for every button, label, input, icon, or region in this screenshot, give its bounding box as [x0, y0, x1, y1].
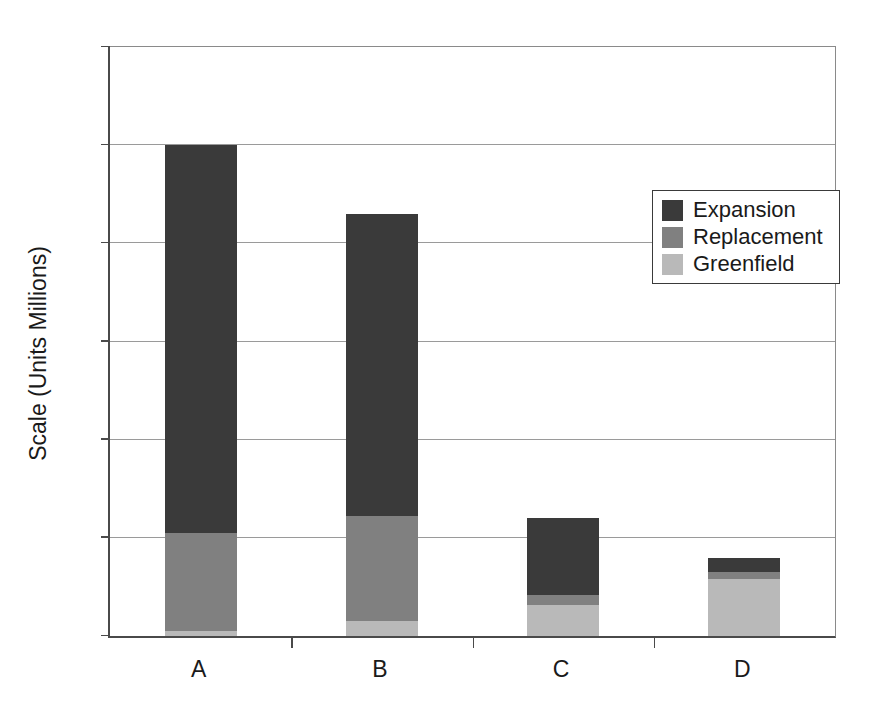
legend-item-label: Replacement — [693, 225, 823, 249]
y-axis-tick-mark — [101, 635, 110, 637]
legend-item: Expansion — [662, 198, 823, 222]
x-axis-tick-label: B — [340, 656, 420, 683]
legend: Expansion Replacement Greenfield — [652, 190, 840, 284]
x-axis-tick-label: D — [702, 656, 782, 683]
bar-b — [346, 214, 418, 636]
plot-area: Expansion Replacement Greenfield — [108, 46, 836, 638]
bar-segment-expansion — [346, 214, 418, 516]
legend-item-label: Expansion — [693, 198, 796, 222]
y-axis-tick-mark — [101, 46, 110, 48]
legend-item: Replacement — [662, 225, 823, 249]
legend-swatch-icon — [662, 200, 683, 221]
bar-segment-replacement — [165, 533, 237, 631]
bar-segment-expansion — [165, 145, 237, 533]
y-axis-tick-mark — [101, 340, 110, 342]
bar-d — [708, 558, 780, 637]
bar-segment-greenfield — [708, 579, 780, 636]
bar-segment-expansion — [527, 518, 599, 595]
bar-segment-replacement — [527, 595, 599, 605]
bar-segment-greenfield — [346, 621, 418, 636]
bar-a — [165, 145, 237, 636]
legend-item: Greenfield — [662, 252, 823, 276]
bar-segment-replacement — [346, 516, 418, 621]
x-axis-tick-label: A — [159, 656, 239, 683]
y-axis-tick-mark — [101, 144, 110, 146]
y-axis-title: Scale (Units Millions) — [25, 204, 52, 504]
bar-segment-greenfield — [165, 631, 237, 636]
x-axis-tick-mark — [654, 636, 656, 648]
bar-segment-greenfield — [527, 605, 599, 636]
x-axis-tick-mark — [473, 636, 475, 648]
legend-swatch-icon — [662, 227, 683, 248]
legend-item-label: Greenfield — [693, 252, 795, 276]
x-axis-tick-label: C — [521, 656, 601, 683]
bar-c — [527, 518, 599, 636]
stacked-bar-chart: Scale (Units Millions) 0123456 ABCD Expa… — [0, 0, 877, 711]
y-axis-tick-mark — [101, 536, 110, 538]
legend-swatch-icon — [662, 254, 683, 275]
bar-segment-expansion — [708, 558, 780, 573]
x-axis-tick-mark — [291, 636, 293, 648]
y-axis-tick-mark — [101, 242, 110, 244]
y-axis-tick-mark — [101, 438, 110, 440]
bar-segment-replacement — [708, 572, 780, 579]
